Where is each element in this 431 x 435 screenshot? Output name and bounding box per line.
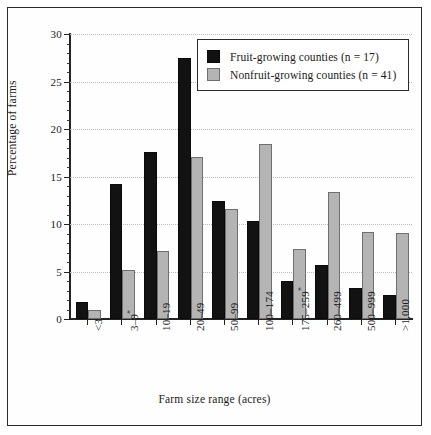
y-axis-tick-label: 5: [56, 266, 62, 278]
legend-item-fruit: Fruit-growing counties (n = 17): [207, 50, 399, 63]
x-axis-tick-label: <3: [92, 319, 104, 331]
bar-nonfruit: [88, 310, 101, 320]
legend-label-nonfruit: Nonfruit-growing counties (n = 41): [230, 69, 396, 81]
x-axis-tick: [190, 319, 191, 325]
bar-nonfruit: [191, 157, 204, 319]
legend-label-fruit: Fruit-growing counties (n = 17): [230, 51, 379, 63]
bar-fruit: [110, 184, 123, 319]
bar-fruit: [315, 265, 328, 319]
y-axis-tick-label: 25: [51, 76, 62, 88]
legend-swatch-fruit-icon: [207, 50, 220, 63]
bar-fruit: [178, 58, 191, 319]
legend-item-nonfruit: Nonfruit-growing counties (n = 41): [207, 68, 399, 81]
bar-fruit: [212, 201, 225, 319]
bar-fruit: [76, 302, 89, 319]
x-axis-tick-label: 50–99: [228, 303, 240, 332]
x-axis-tick: [327, 319, 328, 325]
y-axis-tick-label: 20: [51, 123, 62, 135]
bar-group: [104, 34, 138, 319]
y-axis-tick-label: 30: [51, 28, 62, 40]
bar-fruit: [281, 281, 294, 319]
x-axis-title: Farm size range (acres): [8, 393, 421, 405]
bar-fruit: [144, 152, 157, 319]
bar-group: [70, 34, 104, 319]
y-axis-title: Percentage of farms: [6, 80, 18, 176]
x-axis-tick-label: 10–19: [160, 303, 172, 332]
x-axis-tick-label: 20–49: [194, 303, 206, 332]
bar-group: [138, 34, 172, 319]
bar-fruit: [383, 295, 396, 319]
y-axis-tick-label: 0: [56, 313, 62, 325]
x-axis-tick: [292, 319, 293, 325]
y-axis-tick-label: 10: [51, 218, 62, 230]
x-axis-tick: [361, 319, 362, 325]
x-axis-tick: [156, 319, 157, 325]
x-axis-tick-label: 500–999: [365, 291, 377, 331]
x-axis-tick: [258, 319, 259, 325]
y-axis-tick-label: 15: [51, 171, 62, 183]
legend-swatch-nonfruit-icon: [207, 68, 220, 81]
bar-fruit: [349, 288, 362, 319]
chart-legend: Fruit-growing counties (n = 17) Nonfruit…: [197, 39, 409, 91]
figure-frame: Percentage of farms Farm size range (acr…: [7, 7, 422, 426]
x-axis-tick-label: 260–499: [331, 291, 343, 331]
x-axis-tick-label: 3–9*: [126, 310, 140, 331]
y-axis-tick: [64, 319, 70, 320]
x-axis-tick: [121, 319, 122, 325]
x-axis-tick: [395, 319, 396, 325]
bar-fruit: [247, 221, 260, 319]
x-axis-tick-label: 100–174: [263, 291, 275, 331]
x-axis-tick: [87, 319, 88, 325]
x-axis-tick-label: >1,000: [399, 299, 411, 331]
x-axis-tick-label: 175–259*: [297, 287, 311, 331]
x-axis-tick: [224, 319, 225, 325]
